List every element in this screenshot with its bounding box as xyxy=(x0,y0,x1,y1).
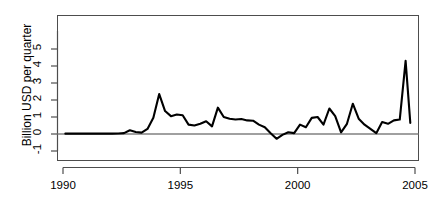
y-tick-label: 4 xyxy=(31,55,43,73)
y-tick-label: 1 xyxy=(31,106,43,124)
x-tick-label: 2005 xyxy=(399,179,431,191)
y-tick-label: 0 xyxy=(31,123,43,141)
y-tick-label: 5 xyxy=(31,38,43,56)
chart-figure: Billion USD per quarter 1990199520002005… xyxy=(0,0,437,212)
x-tick-label: 2000 xyxy=(282,179,314,191)
series-line-billion-usd-per-quarter xyxy=(65,61,410,139)
x-tick-label: 1995 xyxy=(164,179,196,191)
y-tick-label: -1 xyxy=(31,140,43,158)
y-tick-label: 2 xyxy=(31,89,43,107)
x-tick-label: 1990 xyxy=(47,179,79,191)
y-tick-label: 3 xyxy=(31,72,43,90)
plot-frame xyxy=(58,16,419,161)
y-axis-ticks xyxy=(51,49,58,151)
x-axis-ticks xyxy=(63,168,415,175)
